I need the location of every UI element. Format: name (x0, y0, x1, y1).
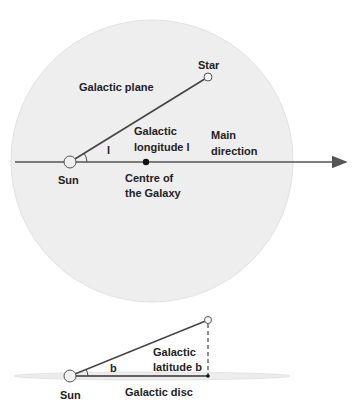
star-marker (204, 73, 212, 81)
latitude-angle-symbol: b (110, 362, 117, 374)
latitude-label-line2: latitude b (153, 361, 202, 373)
galactic-coordinates-diagram: Star Galactic plane Galactic longitude l… (0, 0, 361, 414)
star-label: Star (198, 59, 220, 71)
galactic-plane-disc (11, 20, 293, 302)
centre-label-line1: Centre of (125, 172, 174, 184)
sun-label-side: Sun (60, 389, 81, 401)
sun-marker-side (64, 370, 76, 382)
main-direction-label-line2: direction (211, 145, 258, 157)
galactic-disc-label: Galactic disc (125, 386, 193, 398)
longitude-label-line1: Galactic (134, 125, 177, 137)
galactic-centre-dot (143, 159, 149, 165)
top-diagram: Star Galactic plane Galactic longitude l… (11, 20, 346, 302)
bottom-diagram: Galactic latitude b b Sun Galactic disc (14, 317, 290, 402)
sun-marker (64, 156, 76, 168)
centre-label-line2: the Galaxy (125, 187, 182, 199)
latitude-label-line1: Galactic (153, 346, 196, 358)
longitude-label-line2: longitude l (134, 141, 190, 153)
longitude-angle-symbol: l (107, 144, 110, 156)
sun-label: Sun (58, 174, 79, 186)
galactic-plane-label: Galactic plane (79, 81, 154, 93)
projection-dot (206, 374, 210, 378)
main-direction-label-line1: Main (211, 129, 236, 141)
star-marker-side (205, 317, 212, 324)
